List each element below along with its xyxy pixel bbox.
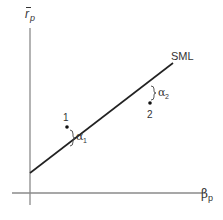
- sml-label: SML: [171, 50, 194, 62]
- point-1-group: 1 α 1: [63, 112, 87, 146]
- alpha-1-sub: 1: [83, 137, 87, 144]
- alpha-2-sub: 2: [165, 93, 169, 100]
- x-axis-label-main: β: [201, 187, 208, 201]
- y-axis-label-sub: p: [29, 13, 35, 23]
- point-2-label: 2: [147, 109, 153, 120]
- y-axis-label: r p: [25, 7, 35, 23]
- point-1-marker: [65, 125, 69, 129]
- point-1-alpha-brace: [70, 130, 75, 146]
- x-axis-label-sub: p: [208, 193, 213, 203]
- point-2-group: 2 α 2: [147, 86, 169, 120]
- sml-diagram: r p β p SML 1 α 1 2 α 2: [0, 0, 223, 220]
- point-2-marker: [148, 101, 152, 105]
- point-2-alpha-brace: [151, 86, 156, 100]
- x-axis-label: β p: [201, 187, 213, 203]
- point-1-label: 1: [63, 112, 69, 123]
